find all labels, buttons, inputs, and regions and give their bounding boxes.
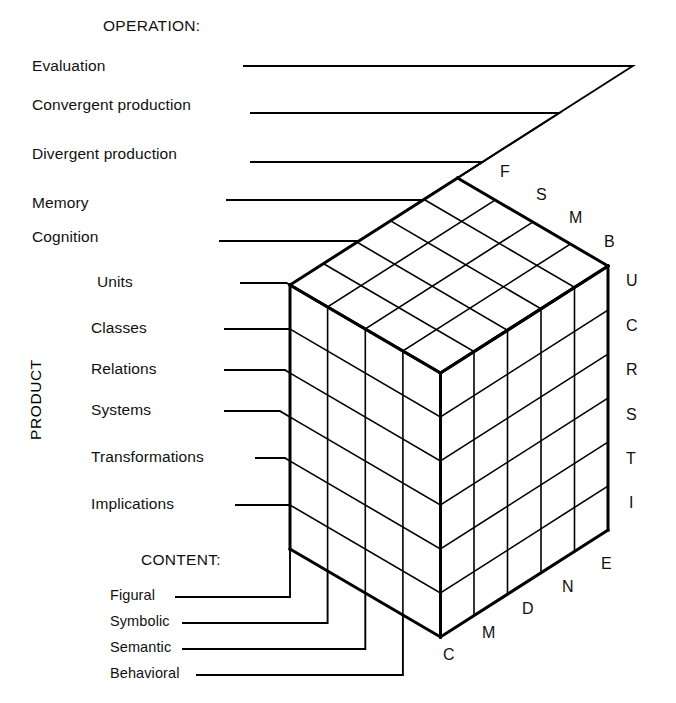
operation-label-memory: Memory xyxy=(32,194,89,212)
content-initial-b: B xyxy=(604,233,615,251)
content-leader xyxy=(182,593,365,649)
content-initial-s: S xyxy=(536,186,547,204)
operation-initial-e: E xyxy=(601,555,612,573)
operation-initial-d: D xyxy=(522,600,534,618)
product-leader xyxy=(224,411,290,417)
content-label-semantic: Semantic xyxy=(110,639,171,655)
product-label-implications: Implications xyxy=(91,495,174,513)
content-initial-m: M xyxy=(569,209,582,227)
product-initial-r: R xyxy=(626,361,638,379)
operation-label-divergent-production: Divergent production xyxy=(32,145,177,163)
product-label-relations: Relations xyxy=(91,360,157,378)
operation-label-evaluation: Evaluation xyxy=(32,57,105,75)
content-label-symbolic: Symbolic xyxy=(110,613,170,629)
soi-diagram: OPERATION: Evaluation Convergent product… xyxy=(0,0,676,703)
product-initial-u: U xyxy=(626,272,638,290)
content-label-behavioral: Behavioral xyxy=(110,665,180,681)
product-initial-s: S xyxy=(626,406,637,424)
operation-initial-n: N xyxy=(562,578,574,596)
operation-initial-c: C xyxy=(443,646,455,664)
cube-body xyxy=(290,178,608,637)
product-initial-i: I xyxy=(629,494,633,512)
operation-heading: OPERATION: xyxy=(103,17,200,35)
content-initial-f: F xyxy=(500,163,510,181)
product-leader xyxy=(255,458,290,461)
product-initial-t: T xyxy=(626,450,636,468)
product-initial-c: C xyxy=(626,317,638,335)
product-leader xyxy=(240,283,290,285)
product-leader xyxy=(224,370,290,373)
operation-initial-m: M xyxy=(482,624,495,642)
operation-label-cognition: Cognition xyxy=(32,228,98,246)
product-label-units: Units xyxy=(97,273,133,291)
product-label-classes: Classes xyxy=(91,319,147,337)
product-label-systems: Systems xyxy=(91,401,151,419)
content-heading: CONTENT: xyxy=(141,551,221,569)
product-label-transformations: Transformations xyxy=(91,448,204,466)
content-leader xyxy=(196,615,403,675)
operation-leader xyxy=(250,113,559,199)
content-label-figural: Figural xyxy=(110,587,155,603)
operation-label-convergent-production: Convergent production xyxy=(32,96,191,114)
product-heading: PRODUCT xyxy=(27,359,45,440)
